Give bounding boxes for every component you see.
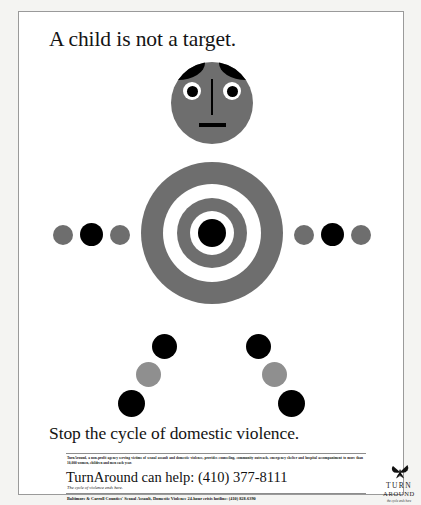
leg-dot-left-top	[152, 334, 177, 359]
leg-dot-right-top	[246, 334, 271, 359]
ring-white-inner	[190, 211, 234, 255]
mouth-icon	[199, 123, 226, 127]
divider-bottom	[66, 493, 366, 494]
arm-dot-left-inner	[110, 225, 130, 245]
leg-dot-right-bottom	[278, 390, 305, 417]
organization-blurb: TurnAround, a non-profit agency serving …	[67, 456, 363, 466]
crisis-hotline-line: Baltimore & Carroll Counties' Sexual Ass…	[67, 497, 256, 501]
leg-dot-left-middle	[136, 362, 161, 387]
arm-dot-right-outer	[351, 225, 371, 245]
poster-frame: A child is not a target.	[18, 11, 404, 495]
bullseye-target	[141, 162, 283, 304]
ring-gray-inner	[177, 198, 247, 268]
hair-right-icon	[219, 62, 253, 80]
ring-white-outer	[163, 184, 261, 282]
slogan: Stop the cycle of domestic violence.	[49, 425, 299, 443]
scanned-page: A child is not a target.	[0, 0, 421, 505]
bullseye-center	[198, 219, 226, 247]
logo-subname: AROUND	[377, 490, 421, 497]
arm-dot-left-middle	[80, 223, 103, 246]
turnaround-logo: TURN AROUND the cycle ends here	[377, 464, 421, 505]
nose-icon	[211, 79, 213, 115]
leg-dot-right-middle	[262, 362, 287, 387]
hair-left-icon	[171, 62, 205, 80]
help-phone-line: TurnAround can help: (410) 377-8111	[66, 470, 288, 485]
eye-right-icon	[223, 82, 241, 100]
leg-dot-left-bottom	[118, 390, 145, 417]
child-head	[171, 62, 253, 144]
pupil-left-icon	[187, 86, 198, 97]
eye-left-icon	[183, 82, 201, 100]
arm-dot-right-middle	[321, 223, 344, 246]
butterfly-icon	[391, 464, 409, 480]
arm-dot-right-inner	[294, 225, 314, 245]
logo-tagline: the cycle ends here	[377, 499, 421, 503]
footer-tagline: The cycle of violence ends here.	[67, 486, 123, 490]
arm-dot-left-outer	[53, 225, 73, 245]
pupil-right-icon	[227, 86, 238, 97]
divider-top	[66, 453, 366, 454]
